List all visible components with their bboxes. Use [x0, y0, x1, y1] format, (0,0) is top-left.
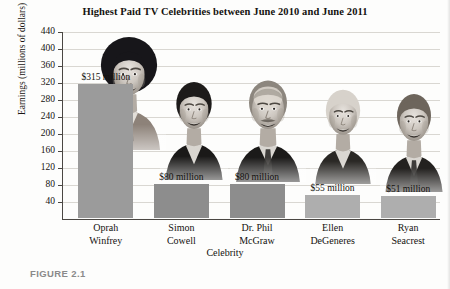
chart-title: Highest Paid TV Celebrities between June…	[0, 6, 450, 17]
y-axis-tick-label: 440	[15, 27, 55, 37]
simon-cowell-photo	[160, 72, 228, 180]
y-axis-tick-label: 320	[15, 78, 55, 88]
y-axis-tick-label: 120	[15, 163, 55, 173]
category-label-line: McGraw	[218, 235, 297, 248]
y-axis-tick	[58, 49, 62, 50]
category-label-line: Ryan	[369, 222, 448, 235]
y-axis-line	[62, 32, 63, 220]
category-label-line: Dr. Phil	[218, 222, 297, 235]
category-label-line: DeGeneres	[293, 235, 372, 248]
y-axis-tick-label: 80	[15, 180, 55, 190]
y-axis-tick	[58, 66, 62, 67]
x-axis-category-label: RyanSeacrest	[369, 222, 448, 247]
gridline	[62, 32, 440, 33]
y-axis-tick	[58, 185, 62, 186]
x-axis-category-label: OprahWinfrey	[66, 222, 145, 247]
y-axis-tick	[58, 117, 62, 118]
bar	[381, 196, 436, 218]
bar	[154, 184, 209, 218]
x-axis-category-label: EllenDeGeneres	[293, 222, 372, 247]
bar-value-label: $80 million	[142, 172, 221, 182]
bar-value-label: $80 million	[218, 172, 297, 182]
y-axis-tick	[58, 134, 62, 135]
x-axis-category-label: Dr. PhilMcGraw	[218, 222, 297, 247]
x-axis-category-label: SimonCowell	[142, 222, 221, 247]
y-axis-tick-label: 160	[15, 146, 55, 156]
bar	[78, 84, 133, 218]
category-label-line: Oprah	[66, 222, 145, 235]
bar	[230, 184, 285, 218]
bar-value-label: $55 million	[293, 183, 372, 193]
x-axis-line	[62, 219, 440, 220]
y-axis-tick	[58, 202, 62, 203]
figure-container: Highest Paid TV Celebrities between June…	[0, 0, 450, 289]
y-axis-tick-label: 400	[15, 44, 55, 54]
bar-value-label: $315 million	[66, 72, 145, 82]
category-label-line: Cowell	[142, 235, 221, 248]
ellen-degeneres-photo	[310, 80, 376, 184]
y-axis-tick-label: 40	[15, 197, 55, 207]
category-label-line: Winfrey	[66, 235, 145, 248]
y-axis-tick-label: 360	[15, 61, 55, 71]
y-axis-tick-label: 280	[15, 95, 55, 105]
ryan-seacrest-photo	[380, 84, 448, 192]
y-axis-tick	[58, 151, 62, 152]
y-axis-tick-label: 240	[15, 112, 55, 122]
y-axis-tick	[58, 168, 62, 169]
category-label-line: Ellen	[293, 222, 372, 235]
bar	[305, 195, 360, 218]
y-axis-tick	[58, 83, 62, 84]
y-axis-tick	[58, 32, 62, 33]
figure-caption: FIGURE 2.1	[30, 268, 86, 279]
y-axis-tick	[58, 100, 62, 101]
bar-value-label: $51 million	[369, 184, 448, 194]
y-axis-title: Earnings (millions of dollars)	[17, 0, 27, 144]
category-label-line: Simon	[142, 222, 221, 235]
category-label-line: Seacrest	[369, 235, 448, 248]
plot-area: $315 million$80 million$80 million$55 mi…	[62, 32, 440, 219]
dr-phil-mcgraw-photo	[230, 70, 306, 182]
y-axis-tick-label: 200	[15, 129, 55, 139]
x-axis-title: Celebrity	[0, 247, 450, 258]
